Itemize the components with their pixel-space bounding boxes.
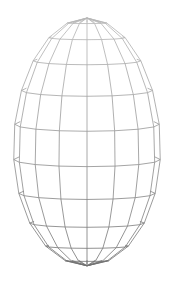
wireframe-ellipsoid-figure bbox=[0, 0, 174, 299]
ellipsoid-wireframe bbox=[0, 0, 174, 299]
wireframe-lines bbox=[14, 18, 160, 266]
